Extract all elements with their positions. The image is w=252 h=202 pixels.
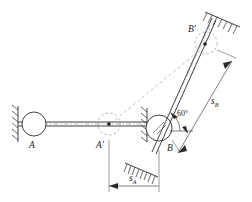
left-wall-support: [12, 105, 22, 142]
joint-a-label: A: [28, 140, 35, 150]
joint-b-label: B: [167, 143, 173, 153]
joint-a-prime-label: A′: [95, 140, 105, 150]
left-wall-hatching: [12, 105, 18, 140]
mechanism-diagram-canvas: A A′ B: [0, 0, 252, 202]
mechanism-figure: A A′ B: [0, 0, 252, 202]
joint-b-prime: [195, 32, 217, 54]
angle-label: 60°: [177, 109, 188, 118]
dimension-s-a-label: sA: [129, 173, 137, 185]
joint-a: [22, 112, 46, 136]
s-b-subscript: B: [215, 102, 219, 108]
dimension-s-b: [172, 50, 236, 153]
top-support: [203, 12, 240, 34]
joint-b-prime-label: B′: [188, 24, 197, 34]
dimension-s-b-label: sB: [211, 96, 219, 108]
s-a-subscript: A: [132, 179, 137, 185]
